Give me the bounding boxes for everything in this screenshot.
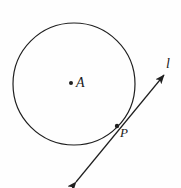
center-point-a-dot [69, 81, 73, 85]
geometry-canvas [0, 0, 181, 188]
center-label-a: A [76, 76, 85, 90]
tangent-point-label-p: P [120, 126, 128, 139]
tangent-line-label-l: l [166, 57, 170, 71]
tangent-point-p-dot [115, 124, 119, 128]
geometry-figure: A P l [0, 0, 181, 188]
